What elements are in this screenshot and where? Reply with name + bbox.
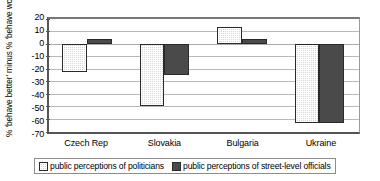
- y-axis-tick-label: -20: [18, 64, 44, 73]
- x-axis-category-label: Bulgaria: [204, 138, 282, 149]
- bar-chart: % 'behave better' minus % 'behave worse'…: [0, 0, 380, 181]
- legend-swatch-icon: [39, 162, 48, 171]
- bar-group: [204, 19, 282, 132]
- y-axis-title: % 'behave better' minus % 'behave worse': [4, 0, 14, 137]
- bar-groups: [49, 19, 359, 132]
- y-axis-tick-label: -30: [18, 77, 44, 86]
- x-axis-category-labels: Czech RepSlovakiaBulgariaUkraine: [47, 138, 360, 149]
- legend-item[interactable]: public perceptions of politicians: [39, 161, 164, 171]
- bar-group: [49, 19, 127, 132]
- bar[interactable]: [242, 39, 267, 44]
- y-axis-tick-label: -10: [18, 51, 44, 60]
- y-axis-tick-label: -70: [18, 129, 44, 138]
- legend-item[interactable]: public perceptions of street-level offic…: [172, 161, 331, 171]
- y-axis-tick-labels: 20100-10-20-30-40-50-60-70: [18, 12, 44, 137]
- legend-label: public perceptions of politicians: [50, 161, 164, 171]
- bar[interactable]: [217, 27, 242, 43]
- bar[interactable]: [87, 39, 112, 44]
- bar[interactable]: [295, 44, 320, 123]
- bar-group: [282, 19, 360, 132]
- x-axis-category-label: Slovakia: [125, 138, 203, 149]
- bar[interactable]: [62, 44, 87, 73]
- bar[interactable]: [140, 44, 165, 107]
- legend-swatch-icon: [172, 162, 181, 171]
- bar[interactable]: [164, 44, 189, 75]
- bar-group: [127, 19, 205, 132]
- y-axis-tick-label: 0: [18, 38, 44, 47]
- y-axis-tick-label: -50: [18, 103, 44, 112]
- x-axis-category-label: Ukraine: [282, 138, 360, 149]
- y-axis-tick-mark: [46, 132, 50, 133]
- y-axis-tick-label: -60: [18, 116, 44, 125]
- legend: public perceptions of politicianspublic …: [34, 158, 336, 174]
- y-axis-tick-label: 10: [18, 25, 44, 34]
- x-axis-category-label: Czech Rep: [47, 138, 125, 149]
- y-axis-tick-label: -40: [18, 90, 44, 99]
- y-axis-tick-label: 20: [18, 12, 44, 21]
- plot-area: [47, 17, 360, 134]
- legend-label: public perceptions of street-level offic…: [183, 161, 331, 171]
- bar[interactable]: [319, 44, 344, 123]
